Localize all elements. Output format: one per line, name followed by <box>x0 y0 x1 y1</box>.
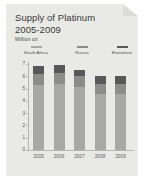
bar-segment-russia <box>54 73 65 84</box>
bar-segment-south-africa <box>54 84 65 150</box>
bar-2005[interactable] <box>33 66 44 150</box>
bar-segment-elsewhere <box>115 76 126 83</box>
y-axis-tick-mark <box>26 150 28 151</box>
y-axis-tick-label: 4 <box>14 98 25 103</box>
title-line-1: Supply of Platinum <box>15 12 127 24</box>
legend-label: South Africa <box>16 50 56 55</box>
legend-label: Elsewhere <box>102 50 138 55</box>
chart-subtitle: Million oz <box>15 36 38 42</box>
y-axis-tick-mark <box>26 138 28 139</box>
legend-item-south-africa[interactable]: South Africa <box>16 46 56 55</box>
bar-2008[interactable] <box>95 76 106 150</box>
legend-label: Russia <box>62 50 102 55</box>
bar-segment-south-africa <box>33 85 44 150</box>
y-axis-tick-label: 7 <box>14 61 25 66</box>
bar-segment-south-africa <box>95 94 106 151</box>
y-axis-tick-mark <box>26 64 28 65</box>
y-axis-tick-mark <box>26 89 28 90</box>
bar-segment-russia <box>95 84 106 94</box>
y-axis-line <box>28 62 29 150</box>
legend-item-elsewhere[interactable]: Elsewhere <box>102 46 138 55</box>
bar-segment-russia <box>33 74 44 85</box>
x-axis-tick-label: 2009 <box>108 154 134 160</box>
bar-segment-elsewhere <box>54 65 65 72</box>
legend-swatch-icon <box>31 46 42 48</box>
bar-segment-elsewhere <box>33 66 44 73</box>
x-axis-line <box>28 150 134 151</box>
bar-segment-south-africa <box>115 94 126 151</box>
y-axis-tick-mark <box>26 76 28 77</box>
bar-segment-russia <box>115 84 126 94</box>
chart-legend: South AfricaRussiaElsewhere <box>14 46 132 59</box>
bar-2007[interactable] <box>74 70 85 150</box>
y-axis-tick-label: 3 <box>14 111 25 116</box>
title-line-2: 2005-2009 <box>15 24 127 36</box>
legend-item-russia[interactable]: Russia <box>62 46 102 55</box>
legend-swatch-icon <box>117 46 128 48</box>
y-axis-tick-mark <box>26 101 28 102</box>
page-title: Supply of Platinum 2005-2009 <box>15 12 127 35</box>
y-axis-tick-label: 5 <box>14 86 25 91</box>
bar-2009[interactable] <box>115 76 126 150</box>
y-axis-tick-mark <box>26 113 28 114</box>
bar-segment-elsewhere <box>95 76 106 83</box>
bar-2006[interactable] <box>54 65 65 150</box>
bar-segment-russia <box>74 76 85 87</box>
chart-card: Supply of Platinum 2005-2009 Million oz … <box>6 4 138 176</box>
y-axis-tick-label: 0 <box>14 147 25 152</box>
y-axis-tick-label: 2 <box>14 123 25 128</box>
y-axis-tick-mark <box>26 125 28 126</box>
y-axis-tick-label: 6 <box>14 74 25 79</box>
y-axis-tick-label: 1 <box>14 135 25 140</box>
bar-segment-south-africa <box>74 87 85 150</box>
legend-swatch-icon <box>77 46 88 48</box>
chart-plot-area: 7654321020052006200720082009 <box>14 62 134 152</box>
